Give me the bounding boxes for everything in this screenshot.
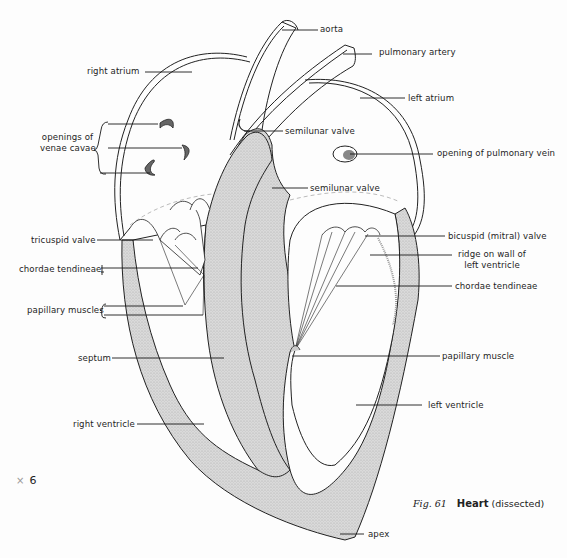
- label-chordae-tendineae-left: chordae tendineae: [19, 265, 101, 274]
- aorta-vessel: [230, 20, 298, 140]
- label-aorta: aorta: [320, 25, 343, 34]
- magnification-value: 6: [29, 474, 36, 487]
- label-bicuspid-valve: bicuspid (mitral) valve: [448, 232, 547, 241]
- figure-number: Fig. 61: [413, 498, 447, 509]
- label-pulmonary-artery: pulmonary artery: [379, 48, 456, 57]
- magnification: ×6: [16, 474, 36, 487]
- label-ridge-line2: left ventricle: [453, 260, 531, 271]
- label-septum: septum: [78, 354, 111, 363]
- label-papillary-muscles: papillary muscles: [27, 306, 104, 315]
- times-symbol: ×: [16, 475, 24, 486]
- label-semilunar-valve-upper: semilunar valve: [285, 127, 355, 136]
- bicuspid-valve: [322, 227, 380, 235]
- figure-title: Heart: [457, 498, 489, 509]
- av-boundary-dashed-right: [290, 192, 400, 202]
- label-papillary-muscle: papillary muscle: [442, 352, 514, 361]
- label-apex: apex: [368, 530, 389, 539]
- label-left-ventricle: left ventricle: [428, 401, 484, 410]
- figure-subtitle: (dissected): [492, 498, 545, 509]
- figure-caption: Fig. 61Heart (dissected): [413, 498, 544, 509]
- label-opening-pulmonary-vein: opening of pulmonary vein: [437, 149, 555, 158]
- label-chordae-tendineae-right: chordae tendineae: [455, 282, 537, 291]
- label-ridge-line1: ridge on wall of: [453, 249, 531, 260]
- venae-cavae-openings: [145, 119, 189, 175]
- label-left-atrium: left atrium: [408, 94, 454, 103]
- label-ridge-left-ventricle: ridge on wall of left ventricle: [453, 249, 531, 271]
- label-openings-venae-cavae-line2: venae cavae: [40, 143, 95, 154]
- label-semilunar-valve-lower: semilunar valve: [310, 184, 380, 193]
- label-tricuspid-valve: tricuspid valve: [31, 236, 96, 245]
- semilunar-valve-upper-cusp: [239, 119, 250, 131]
- heart-diagram: [0, 0, 567, 558]
- label-right-atrium: right atrium: [87, 67, 140, 76]
- label-openings-venae-cavae: openings of venae cavae: [40, 132, 95, 154]
- label-right-ventricle: right ventricle: [73, 420, 135, 429]
- label-openings-venae-cavae-line1: openings of: [40, 132, 95, 143]
